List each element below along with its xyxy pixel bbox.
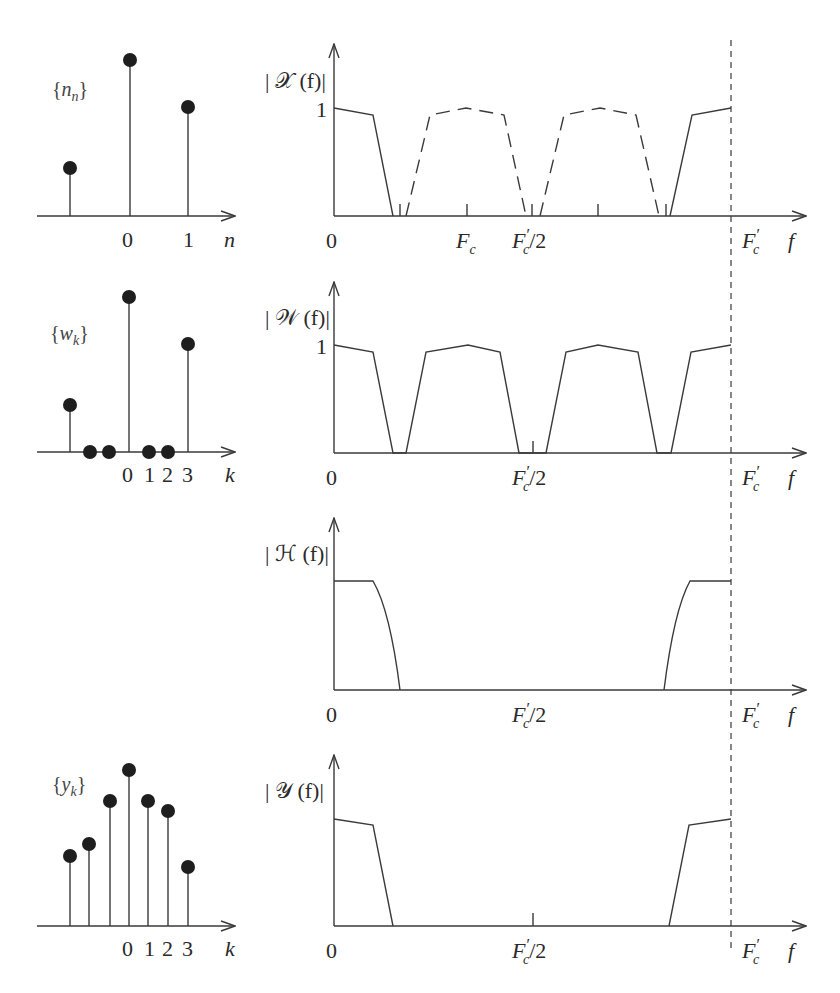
sequence-x-plot: {nn} 0 1 n (37, 53, 235, 252)
svg-text:1: 1 (316, 97, 327, 122)
svg-text:k: k (225, 462, 236, 487)
interpolation-figure: {nn} 0 1 n | 𝒳 (f)| 1 0 Fc F′c/2 F′c f {… (0, 0, 840, 993)
spectrum-y-plot: | 𝒴 (f)| 0 F′c/2 F′c f (265, 755, 806, 967)
svg-text:1: 1 (316, 334, 327, 359)
spectrum-w-plot: | 𝒲 (f)| 1 0 F′c/2 F′c f (265, 282, 806, 494)
svg-text:f: f (788, 702, 797, 727)
svg-text:F′c/2: F′c/2 (511, 463, 546, 494)
y-spectrum-label: | 𝒴 (f)| (265, 778, 324, 803)
svg-text:0: 0 (326, 228, 337, 253)
svg-text:f: f (788, 465, 797, 490)
svg-text:f: f (788, 228, 797, 253)
svg-text:0: 0 (122, 462, 133, 487)
svg-text:1: 1 (183, 227, 194, 252)
svg-text:f: f (788, 938, 797, 963)
Fc-prime-label: F′c (741, 226, 760, 257)
x-sequence-label: {nn} (52, 78, 88, 104)
spectrum-x-plot: | 𝒳 (f)| 1 0 Fc F′c/2 F′c f (265, 44, 806, 257)
Fc-label: Fc (455, 228, 476, 257)
svg-text:3: 3 (182, 462, 193, 487)
sequence-w-plot: {wk} 0 1 2 3 k (37, 290, 236, 487)
svg-text:2: 2 (162, 462, 173, 487)
w-spectrum-label: | 𝒲 (f)| (265, 305, 330, 330)
h-spectrum-label: | ℋ (f)| (265, 541, 329, 566)
svg-text:1: 1 (144, 462, 155, 487)
svg-text:0: 0 (326, 465, 337, 490)
svg-text:3: 3 (182, 936, 193, 961)
sequence-y-plot: {yk} 0 1 2 3 k (37, 763, 236, 961)
svg-text:k: k (225, 936, 236, 961)
w-sequence-label: {wk} (50, 322, 89, 348)
svg-text:F′c/2: F′c/2 (511, 936, 546, 967)
svg-text:2: 2 (162, 936, 173, 961)
svg-text:0: 0 (326, 938, 337, 963)
svg-text:0: 0 (122, 227, 133, 252)
x-spectrum-label: | 𝒳 (f)| (265, 68, 326, 93)
svg-text:F′c: F′c (741, 463, 760, 494)
svg-text:1: 1 (144, 936, 155, 961)
svg-text:n: n (224, 227, 235, 252)
svg-text:F′c: F′c (741, 936, 760, 967)
svg-text:F′c/2: F′c/2 (511, 700, 546, 731)
svg-text:F′c: F′c (741, 700, 760, 731)
spectrum-h-plot: | ℋ (f)| 0 F′c/2 F′c f (265, 518, 806, 731)
y-sequence-label: {yk} (52, 773, 86, 799)
svg-text:0: 0 (122, 936, 133, 961)
Fc-half-label: F′c/2 (511, 226, 546, 257)
svg-text:0: 0 (326, 702, 337, 727)
